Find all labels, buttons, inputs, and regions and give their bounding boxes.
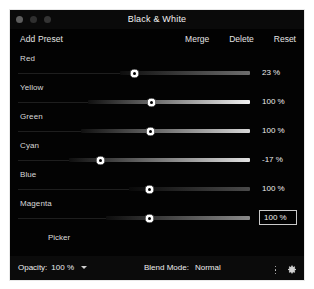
slider-value: -17 % — [262, 155, 283, 164]
slider-gradient-fill — [88, 100, 250, 104]
slider-value: 23 % — [262, 68, 280, 77]
slider-value: 100 % — [262, 126, 285, 135]
reset-button[interactable]: Reset — [274, 34, 296, 44]
slider-gradient-fill — [81, 129, 250, 133]
slider-track[interactable] — [18, 127, 250, 136]
blend-mode-control[interactable]: Blend Mode: Normal — [144, 263, 221, 272]
slider-knob[interactable] — [146, 127, 155, 136]
slider-value: 100 % — [262, 97, 285, 106]
slider-row: Cyan-17 % — [10, 140, 304, 169]
opacity-control[interactable]: Opacity: 100 % — [18, 263, 87, 272]
more-options-icon[interactable] — [273, 265, 279, 276]
slider-label: Blue — [20, 170, 36, 179]
merge-button[interactable]: Merge — [185, 34, 209, 44]
screenshot-root: Black & White Add Preset Merge Delete Re… — [0, 0, 314, 289]
picker-row: Picker — [10, 227, 304, 251]
slider-row: Green100 % — [10, 111, 304, 140]
slider-track[interactable] — [18, 98, 250, 107]
slider-label: Green — [20, 112, 43, 121]
slider-label: Cyan — [20, 141, 39, 150]
title-bar: Black & White — [10, 10, 304, 29]
slider-value-input[interactable]: 100 % — [259, 210, 297, 225]
slider-track[interactable] — [18, 185, 250, 194]
opacity-value[interactable]: 100 % — [51, 263, 74, 272]
slider-label: Magenta — [20, 199, 52, 208]
slider-row: Magenta100 % — [10, 198, 304, 227]
slider-knob[interactable] — [145, 185, 154, 194]
slider-label: Red — [20, 54, 35, 63]
panel-toolbar: Add Preset Merge Delete Reset — [10, 29, 304, 50]
picker-button[interactable]: Picker — [48, 233, 70, 242]
slider-value: 100 % — [262, 184, 285, 193]
blend-mode-value[interactable]: Normal — [195, 263, 221, 272]
slider-knob[interactable] — [145, 214, 154, 223]
slider-knob[interactable] — [130, 69, 139, 78]
slider-track[interactable] — [18, 156, 250, 165]
opacity-label: Opacity: — [18, 263, 47, 272]
bottom-status-bar: Opacity: 100 % Blend Mode: Normal — [10, 256, 304, 280]
slider-track[interactable] — [18, 69, 250, 78]
slider-track[interactable] — [18, 214, 250, 223]
gear-icon[interactable] — [287, 261, 297, 279]
bottom-bar-icons — [273, 261, 298, 279]
blend-mode-label: Blend Mode: — [144, 263, 189, 272]
chevron-down-icon[interactable] — [81, 266, 87, 269]
channel-sliders: Red23 %Yellow100 %Green100 %Cyan-17 %Blu… — [10, 50, 304, 227]
slider-row: Blue100 % — [10, 169, 304, 198]
toolbar-actions: Merge Delete Reset — [185, 34, 296, 44]
slider-gradient-fill — [120, 71, 250, 75]
slider-label: Yellow — [20, 83, 43, 92]
delete-button[interactable]: Delete — [229, 34, 254, 44]
slider-knob[interactable] — [147, 98, 156, 107]
black-and-white-panel: Black & White Add Preset Merge Delete Re… — [9, 9, 305, 281]
slider-row: Yellow100 % — [10, 82, 304, 111]
slider-gradient-fill — [106, 216, 250, 220]
window-title: Black & White — [10, 14, 304, 24]
add-preset-button[interactable]: Add Preset — [20, 34, 63, 44]
slider-knob[interactable] — [96, 156, 105, 165]
slider-row: Red23 % — [10, 53, 304, 82]
